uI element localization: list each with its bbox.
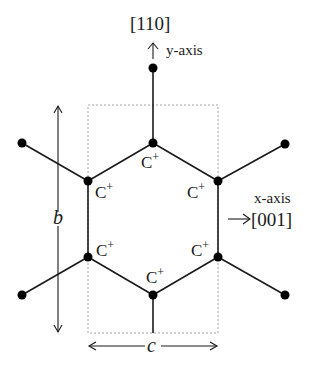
atom-outer-lower-right <box>281 291 290 300</box>
label-ring-bottom: C+ <box>146 265 164 287</box>
c-label: c <box>147 334 156 356</box>
atom-outer-lower-left <box>18 291 27 300</box>
atom-outer-upper-right <box>281 140 290 149</box>
atom-ring-lower-right <box>214 253 223 262</box>
x-axis-label: x-axis <box>254 190 291 206</box>
atom-ring-lower-left <box>84 253 93 262</box>
y-axis-indicator: [110] y-axis <box>130 13 203 59</box>
x-direction-label: [001] <box>251 209 292 230</box>
atom-outer-upper-left <box>18 139 27 148</box>
hexagon-unit-cell-diagram: C+ C+ C+ C+ C+ C+ [110] y-axis x-axis [0… <box>0 0 317 371</box>
label-ring-lower-right: C+ <box>191 238 209 260</box>
atom-labels: C+ C+ C+ C+ C+ C+ <box>95 150 209 287</box>
label-ring-upper-left: C+ <box>95 180 113 202</box>
atom-top-outer <box>149 64 158 73</box>
y-direction-label: [110] <box>130 13 170 34</box>
atom-ring-bottom <box>149 291 158 300</box>
atom-ring-upper-right <box>214 177 223 186</box>
atom-ring-top <box>149 139 158 148</box>
label-ring-lower-left: C+ <box>96 238 114 260</box>
b-label: b <box>53 206 63 228</box>
label-ring-top: C+ <box>141 150 159 172</box>
atom-ring-upper-left <box>84 177 93 186</box>
y-axis-label: y-axis <box>166 42 203 58</box>
c-dimension: c <box>89 334 217 356</box>
label-ring-upper-right: C+ <box>187 180 205 202</box>
x-axis-indicator: x-axis [001] <box>228 190 292 230</box>
b-dimension: b <box>53 106 63 332</box>
